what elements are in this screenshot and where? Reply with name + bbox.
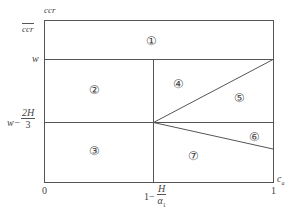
frac-den-sub: 1 [163, 202, 166, 208]
region-5-label: ⑤ [234, 92, 245, 104]
x-tick-1: 1 [271, 186, 276, 196]
x-tick-threshold-frac: H α1 [157, 183, 166, 208]
x-tick-threshold-prefix: 1− [144, 192, 155, 202]
y-tick-w: w [32, 54, 39, 64]
y-tick-w-2h3-prefix: w− [7, 118, 20, 128]
y-axis-label-top: ccr [44, 6, 56, 15]
x-tick-0: 0 [42, 186, 47, 196]
frac-den: α1 [157, 195, 166, 208]
frac-den: 3 [21, 119, 35, 130]
region-1-label: ① [146, 35, 157, 47]
region-3-label: ③ [89, 145, 100, 157]
region-2-label: ② [89, 84, 100, 96]
diagonal-upper [154, 60, 274, 123]
frac-num: H [157, 183, 166, 195]
y-axis-label-side: ccr [22, 23, 34, 34]
region-6-label: ⑥ [249, 131, 260, 143]
y-tick-w-2h3-frac: 2H 3 [21, 107, 35, 130]
x-axis-label: ca [277, 174, 284, 186]
region-4-label: ④ [173, 78, 184, 90]
x-axis-label-sub: a [281, 180, 284, 186]
frac-num: 2H [21, 107, 35, 119]
region-7-label: ⑦ [188, 150, 199, 162]
